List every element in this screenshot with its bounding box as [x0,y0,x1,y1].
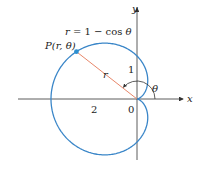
tick-label-2: 2 [91,104,97,115]
origin-label: 0 [128,104,134,115]
theta-label: θ [152,83,158,94]
cardioid-diagram: r = 1 − cos θ P(r, θ) r θ x y 2 1 0 [0,0,202,169]
equation-label: r = 1 − cos θ [65,26,132,37]
y-axis-label: y [131,3,138,14]
x-axis-label: x [187,93,193,104]
point-label: P(r, θ) [44,40,76,51]
radius-label: r [103,69,109,80]
angle-arc-icon [124,81,155,99]
tick-label-1: 1 [128,64,134,75]
